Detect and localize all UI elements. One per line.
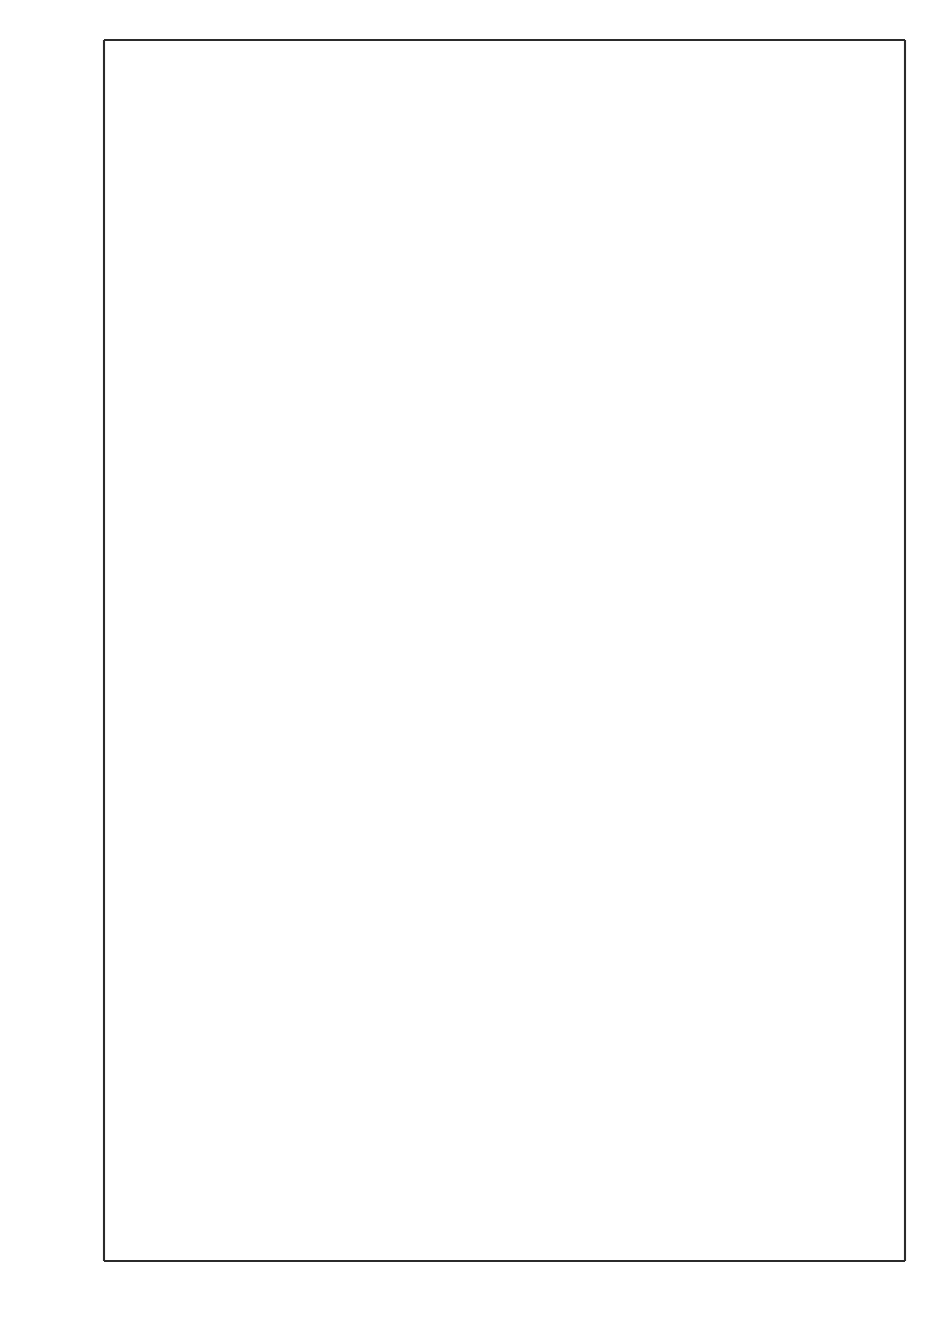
plot-canvas: [0, 0, 938, 1335]
figure-background: [0, 0, 938, 1335]
scatter-plot-figure: [0, 0, 938, 1335]
